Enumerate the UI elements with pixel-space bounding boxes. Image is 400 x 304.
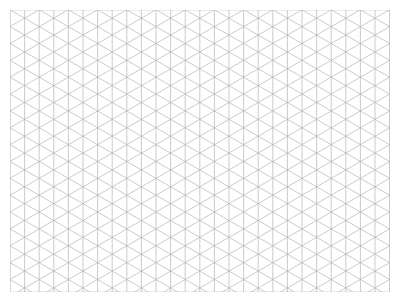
isometric-grid-graphic — [10, 10, 390, 292]
isometric-grid-paper — [10, 10, 390, 292]
